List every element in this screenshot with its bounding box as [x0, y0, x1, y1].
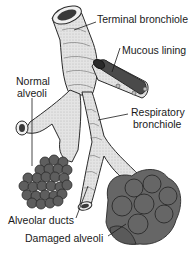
label-alveolar-ducts: Alveolar ducts — [8, 215, 74, 226]
damaged-alveoli-cluster — [106, 170, 181, 245]
left-branch — [16, 90, 81, 162]
terminal-bronchiole-tube — [50, 2, 97, 95]
mucous-lining-branch — [92, 58, 148, 98]
normal-alveoli-cluster — [19, 155, 72, 209]
label-damaged-alveoli: Damaged alveoli — [25, 233, 103, 244]
label-terminal-bronchiole: Terminal bronchiole — [97, 14, 188, 25]
leader-respiratory-bronchiole — [98, 114, 128, 120]
label-respiratory-bronchiole-line2: bronchiole — [133, 119, 181, 130]
label-respiratory-bronchiole-line1: Respiratory — [131, 107, 185, 118]
label-normal-alveoli-line2: alveoli — [17, 88, 47, 99]
bronchiole-alveoli-diagram: Terminal bronchiole Mucous lining Normal… — [0, 0, 190, 253]
label-mucous-lining: Mucous lining — [122, 45, 186, 56]
label-normal-alveoli-line1: Normal — [16, 76, 50, 87]
